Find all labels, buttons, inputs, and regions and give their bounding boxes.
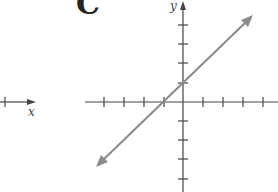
graph-canvas: C x y xyxy=(0,0,278,192)
plotted-line xyxy=(96,15,253,167)
left-x-axis-label: x xyxy=(28,105,35,119)
y-axis-label: y xyxy=(169,0,177,13)
panel-label: C xyxy=(76,0,100,21)
arrow-up-icon xyxy=(180,1,186,10)
left-partial-x-axis: x xyxy=(0,97,36,119)
y-axis: y xyxy=(169,0,188,192)
x-axis xyxy=(85,97,278,107)
